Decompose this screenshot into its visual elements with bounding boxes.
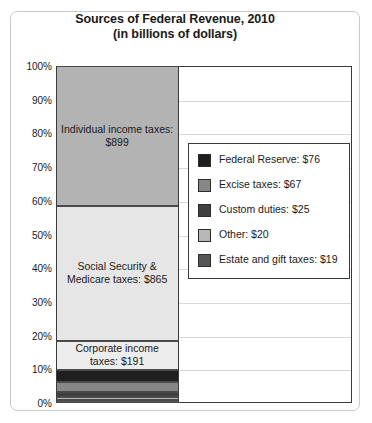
legend-swatch-icon — [198, 179, 211, 192]
bar-segment-label: Corporate income taxes: $191 — [57, 342, 178, 368]
bar-segment-label: Individual income taxes: $899 — [57, 123, 178, 149]
chart-title: Sources of Federal Revenue, 2010 (in bil… — [18, 12, 332, 42]
y-axis: 100%90%80%70%60%50%40%30%20%10%0% — [12, 58, 52, 406]
bar-segment-label: Social Security & Medicare taxes: $865 — [57, 260, 178, 286]
legend-item[interactable]: Federal Reserve: $76 — [198, 153, 341, 167]
y-tick-label: 70% — [12, 162, 52, 173]
y-tick-label: 10% — [12, 364, 52, 375]
legend-label: Excise taxes: $67 — [219, 178, 301, 191]
bar-segment[interactable]: Corporate income taxes: $191 — [56, 341, 179, 371]
bar-segment[interactable]: Social Security & Medicare taxes: $865 — [56, 206, 179, 341]
y-tick-label: 50% — [12, 229, 52, 240]
legend-item[interactable]: Estate and gift taxes: $19 — [198, 253, 341, 267]
y-tick-label: 0% — [12, 398, 52, 409]
chart-title-main: Sources of Federal Revenue, 2010 — [75, 12, 275, 26]
legend-label: Custom duties: $25 — [219, 203, 309, 216]
y-tick-label: 100% — [12, 61, 52, 72]
y-tick-label: 80% — [12, 128, 52, 139]
legend-item[interactable]: Other: $20 — [198, 228, 341, 242]
y-tick-label: 30% — [12, 296, 52, 307]
y-tick-label: 90% — [12, 94, 52, 105]
bar-segment[interactable]: Individual income taxes: $899 — [56, 66, 179, 206]
chart-subtitle: (in billions of dollars) — [18, 27, 332, 42]
chart-page: Sources of Federal Revenue, 2010 (in bil… — [0, 0, 372, 423]
bar-segment[interactable] — [56, 400, 179, 403]
legend-item[interactable]: Excise taxes: $67 — [198, 178, 341, 192]
bar-segment[interactable] — [56, 382, 179, 392]
chart-legend: Federal Reserve: $76Excise taxes: $67Cus… — [188, 143, 350, 279]
y-tick-label: 40% — [12, 263, 52, 274]
y-tick-label: 20% — [12, 330, 52, 341]
legend-swatch-icon — [198, 254, 211, 267]
legend-swatch-icon — [198, 229, 211, 242]
stacked-bar[interactable]: Individual income taxes: $899Social Secu… — [56, 66, 179, 403]
legend-swatch-icon — [198, 204, 211, 217]
legend-label: Estate and gift taxes: $19 — [219, 253, 338, 266]
legend-label: Federal Reserve: $76 — [219, 153, 320, 166]
bar-segment[interactable] — [56, 370, 179, 382]
y-tick-label: 60% — [12, 195, 52, 206]
legend-label: Other: $20 — [219, 228, 269, 241]
legend-swatch-icon — [198, 154, 211, 167]
legend-item[interactable]: Custom duties: $25 — [198, 203, 341, 217]
